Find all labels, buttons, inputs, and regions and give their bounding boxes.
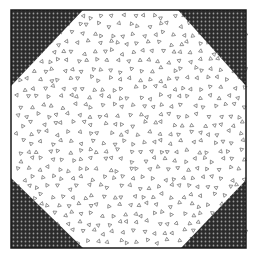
quilt-block xyxy=(0,0,255,260)
